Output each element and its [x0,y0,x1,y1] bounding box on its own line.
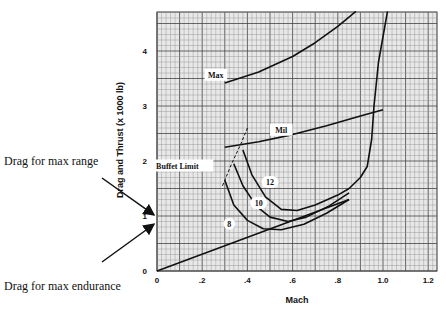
y-tick-label: 2 [143,157,148,166]
x-tick-label: 1.0 [377,276,389,285]
x-tick-label: 0 [155,276,160,285]
x-axis-label: Mach [285,295,308,305]
x-tick-label: .8 [334,276,341,285]
curve-label: 8 [227,220,231,229]
arrow-max-endurance [102,224,154,262]
x-tick-label: 1.2 [423,276,435,285]
x-tick-label: .6 [289,276,296,285]
y-tick-label: 0 [143,267,148,276]
y-axis-label: Drag and Thrust (x 1000 lb) [115,82,125,198]
grid [157,12,437,271]
y-tick-label: 3 [143,102,148,111]
annotations: Drag for max rangeDrag for max endurance [4,154,154,293]
x-tick-label: .2 [199,276,206,285]
annotation-max-endurance: Drag for max endurance [4,279,121,293]
curve-label: Buffet Limit [156,162,199,171]
x-tick-label: .4 [244,276,251,285]
curve-label: 10 [255,199,263,208]
y-tick-label: 1 [143,212,148,221]
curve-label: Max [208,71,224,80]
y-tick-label: 4 [143,47,148,56]
arrow-max-range [102,178,154,215]
curve-label: 12 [266,178,274,187]
curve-label: Mil [275,126,288,135]
drag-thrust-chart: MaxMil12108Buffet Limit 0.2.4.6.81.01.20… [0,0,446,311]
annotation-max-range: Drag for max range [4,154,98,168]
